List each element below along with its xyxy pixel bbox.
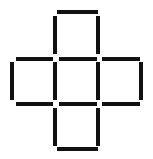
lower-row-right-edge [102, 102, 140, 106]
lower-row-center-edge [59, 102, 97, 106]
upper-row-left-edge [16, 57, 53, 61]
lower-row-left-edge [16, 102, 53, 106]
top-square-top-edge [57, 10, 98, 14]
bottom-square-bottom-edge [57, 147, 98, 151]
bottom-square-left-edge [53, 108, 57, 146]
upper-row-center-edge [59, 57, 97, 61]
right-square-right-edge [139, 62, 143, 100]
bottom-square-right-edge [96, 108, 100, 146]
top-square-left-edge [53, 16, 57, 54]
middle-right-vertical-edge [96, 62, 100, 100]
upper-row-right-edge [102, 57, 140, 61]
left-square-left-edge [10, 62, 14, 100]
middle-left-vertical-edge [53, 62, 57, 100]
top-square-right-edge [96, 16, 100, 54]
matchstick-figure-canvas [0, 0, 153, 159]
